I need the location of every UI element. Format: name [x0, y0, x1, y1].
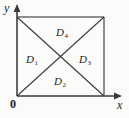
x-axis-label: x — [117, 99, 122, 111]
region-d1-subscript: 1 — [34, 59, 38, 67]
y-axis-label: y — [4, 2, 9, 14]
region-label-d3: D3 — [79, 54, 91, 67]
region-d4-base: D — [56, 26, 64, 38]
region-d1-base: D — [26, 53, 34, 65]
geometry-figure: y x 0 D1 D2 D3 D4 — [0, 0, 129, 118]
region-d2-base: D — [54, 75, 62, 87]
figure-graphics — [0, 0, 129, 118]
region-d3-base: D — [79, 53, 87, 65]
region-label-d2: D2 — [54, 76, 66, 89]
region-d2-subscript: 2 — [62, 81, 66, 89]
region-d4-subscript: 4 — [64, 32, 68, 40]
region-d3-subscript: 3 — [87, 59, 91, 67]
region-label-d4: D4 — [56, 27, 68, 40]
y-axis-arrowhead — [14, 4, 21, 12]
origin-label: 0 — [10, 98, 16, 110]
region-label-d1: D1 — [26, 54, 38, 67]
